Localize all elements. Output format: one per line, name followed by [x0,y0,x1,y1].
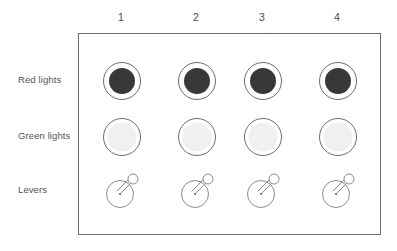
lever-4[interactable] [316,169,360,213]
column-header-4: 4 [322,11,352,24]
row-label-red-lights: Red lights [18,74,84,86]
red-light-4[interactable] [316,59,360,103]
lever-1[interactable] [100,169,144,213]
red-light-2[interactable] [175,59,219,103]
column-header-1: 1 [106,11,136,24]
green-light-3[interactable] [241,115,285,159]
row-label-green-lights: Green lights [18,130,84,142]
column-header-3: 3 [247,11,277,24]
row-label-levers: Levers [18,184,84,196]
control-panel-figure: 1 2 3 4 Red lights Green lights Levers [0,0,397,251]
lever-3[interactable] [241,169,285,213]
column-header-2: 2 [181,11,211,24]
red-light-1[interactable] [100,59,144,103]
red-light-3[interactable] [241,59,285,103]
lever-2[interactable] [175,169,219,213]
green-light-1[interactable] [100,115,144,159]
green-light-2[interactable] [175,115,219,159]
panel-box [78,33,381,235]
green-light-4[interactable] [316,115,360,159]
